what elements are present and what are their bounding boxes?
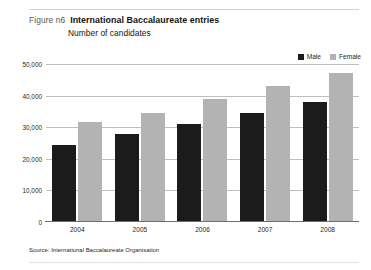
y-axis-tick-label: 20,000 <box>22 155 42 162</box>
page-title: International Baccalaureate entries <box>70 15 219 25</box>
x-axis-tick-label: 2006 <box>171 226 234 233</box>
bar-female-2004 <box>78 122 102 222</box>
legend-item-female: Female <box>330 53 361 60</box>
bar-group-2004 <box>46 64 109 222</box>
bar-male-2004 <box>52 145 76 222</box>
legend-swatch-male <box>298 54 304 60</box>
plot-area: 50,00040,00030,00020,00010,0000 <box>46 64 359 222</box>
title-row: Figure n6 International Baccalaureate en… <box>29 15 361 26</box>
legend-label: Male <box>307 53 321 60</box>
source-note: Source: International Baccalaureate Orga… <box>29 247 159 253</box>
x-axis-tick-label: 2007 <box>234 226 297 233</box>
y-axis-tick-label: 40,000 <box>22 92 42 99</box>
x-axis-tick-label: 2004 <box>46 226 109 233</box>
figure-header: Figure n6 International Baccalaureate en… <box>29 15 361 38</box>
y-axis-tick-label: 30,000 <box>22 124 42 131</box>
legend-swatch-female <box>330 54 336 60</box>
x-axis-tick-label: 2008 <box>296 226 359 233</box>
x-axis-tick-label: 2005 <box>109 226 172 233</box>
bar-male-2008 <box>303 102 327 222</box>
y-axis-tick-label: 0 <box>38 219 42 226</box>
bar-group-2007 <box>234 64 297 222</box>
legend-item-male: Male <box>298 53 321 60</box>
figure-container: Figure n6 International Baccalaureate en… <box>0 0 371 270</box>
figure-subtitle: Number of candidates <box>68 28 361 38</box>
chart-legend: MaleFemale <box>298 53 361 60</box>
bar-groups <box>46 64 359 222</box>
bar-female-2005 <box>141 113 165 222</box>
bar-group-2008 <box>296 64 359 222</box>
bar-group-2006 <box>171 64 234 222</box>
bar-female-2008 <box>329 73 353 222</box>
bar-female-2006 <box>203 99 227 222</box>
legend-label: Female <box>339 53 361 60</box>
x-axis-line <box>45 221 359 222</box>
bar-group-2005 <box>109 64 172 222</box>
bar-male-2006 <box>177 124 201 222</box>
y-axis-tick-label: 50,000 <box>22 61 42 68</box>
bar-male-2007 <box>240 113 264 222</box>
figure-number: Figure n6 <box>29 16 65 26</box>
bar-male-2005 <box>115 134 139 222</box>
top-divider <box>29 9 359 10</box>
bar-female-2007 <box>266 86 290 222</box>
bottom-divider <box>29 262 359 263</box>
x-axis-labels: 20042005200620072008 <box>46 226 359 233</box>
y-axis-tick-label: 10,000 <box>22 187 42 194</box>
